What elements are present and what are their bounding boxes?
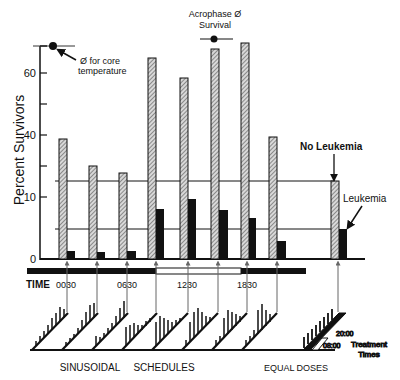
time-0800-label: 08:00 [323, 342, 341, 349]
time-0030: 0030 [56, 280, 76, 290]
sinusoidal-schedules [30, 301, 335, 350]
bar-no-leukemia-equal [331, 181, 339, 259]
time-2000-label: 20:00 [336, 330, 354, 337]
bar-leukemia [127, 251, 136, 259]
bar-leukemia [67, 251, 75, 259]
acrophase-survival-marker: Acrophase Ø Survival [189, 9, 242, 43]
sinusoidal-label: SINUSOIDAL [60, 362, 121, 373]
core-temperature-marker: Ø for core temperature [33, 42, 127, 76]
schedules-label: SCHEDULES [133, 362, 194, 373]
bar-leukemia [188, 199, 196, 259]
bar-no-leukemia [241, 43, 249, 259]
bar-leukemia [97, 252, 105, 259]
no-leukemia-label: No Leukemia [300, 141, 363, 152]
y-tick-0: 0 [30, 253, 36, 265]
series-annotations: No Leukemia Leukemia [300, 141, 387, 226]
bar-no-leukemia [269, 137, 277, 259]
time-label: TIME [26, 279, 50, 290]
bar-leukemia-equal [339, 229, 347, 259]
chart-canvas: 60 40 10 0 Percent Survivors Ø for core … [0, 0, 400, 380]
time-1230: 1230 [177, 280, 197, 290]
treatment-label-2: Times [358, 350, 379, 359]
core-temp-label-1: Ø for core [80, 56, 120, 66]
bar-no-leukemia [148, 58, 156, 259]
bar-no-leukemia [119, 173, 127, 259]
bar-no-leukemia [211, 49, 219, 259]
y-axis: 60 40 10 0 Percent Survivors [11, 46, 47, 265]
treatment-label-1: Treatment [351, 340, 388, 349]
bar-leukemia [156, 209, 164, 259]
leukemia-label: Leukemia [343, 193, 387, 204]
y-axis-label: Percent Survivors [11, 95, 27, 205]
bar-no-leukemia [89, 166, 97, 259]
acrophase-label-1: Acrophase Ø [189, 9, 242, 19]
core-temp-label-2: temperature [78, 66, 127, 76]
equal-doses-label: EQUAL DOSES [264, 363, 328, 373]
acrophase-label-2: Survival [199, 20, 231, 30]
bar-no-leukemia [180, 78, 188, 259]
bar-leukemia [219, 210, 228, 259]
bar-leukemia [277, 241, 286, 259]
time-bar: TIME 0030 0630 1230 1830 [26, 268, 306, 290]
bar-no-leukemia [59, 139, 67, 259]
equal-doses-schedule: 20:00 08:00 Treatment Times [300, 309, 388, 359]
y-tick-60: 60 [24, 67, 36, 79]
bar-leukemia [249, 218, 256, 259]
